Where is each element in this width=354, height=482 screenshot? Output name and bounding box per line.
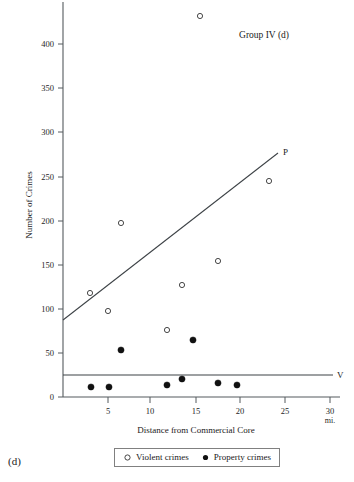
y-tick-label: 200 (41, 216, 54, 226)
p-line-label: P (283, 147, 288, 157)
data-point-property (106, 384, 112, 390)
data-point-property (179, 376, 185, 382)
y-tick-label: 0 (50, 392, 54, 402)
filled-circle-icon (201, 453, 210, 462)
legend-label-violent: Violent crimes (136, 451, 189, 463)
fit-line-p: P (63, 147, 288, 320)
scatter-plot-figure: 0 50 100 150 200 250 300 350 400 5 10 15… (0, 0, 354, 482)
open-circle-icon (123, 453, 132, 462)
chart-legend: Violent crimes Property crimes (114, 448, 280, 467)
group-title: Group IV (d) (239, 30, 289, 41)
data-point-violent (87, 290, 92, 295)
x-axis-tick-labels: 5 10 15 20 25 30 mi. (106, 406, 335, 425)
v-line-label: V (337, 370, 344, 380)
y-axis-ticks (58, 44, 63, 397)
data-point-property (118, 347, 124, 353)
data-point-property (88, 384, 94, 390)
x-tick-label: 10 (146, 406, 155, 416)
data-point-property (164, 382, 170, 388)
axis-lines (63, 2, 340, 397)
y-tick-label: 100 (41, 304, 54, 314)
data-point-violent (266, 178, 271, 183)
plot-canvas: 0 50 100 150 200 250 300 350 400 5 10 15… (0, 0, 354, 482)
data-point-violent (118, 220, 123, 225)
legend-entry-property: Property crimes (201, 451, 271, 463)
x-axis-ticks (108, 397, 330, 403)
data-point-property (234, 382, 240, 388)
legend-label-property: Property crimes (214, 451, 271, 463)
x-axis-title: Distance from Commercial Core (137, 425, 255, 435)
x-axis-unit-label: mi. (325, 416, 335, 425)
legend-entry-violent: Violent crimes (123, 451, 189, 463)
x-tick-label: 30 (326, 406, 335, 416)
series-violent-crimes (87, 13, 271, 332)
y-tick-label: 400 (41, 39, 54, 49)
data-point-violent-outlier (197, 13, 202, 18)
data-point-violent (164, 327, 169, 332)
panel-letter: (d) (8, 455, 21, 467)
x-tick-label: 15 (192, 406, 201, 416)
x-tick-label: 25 (281, 406, 290, 416)
y-tick-label: 250 (41, 172, 54, 182)
data-point-property (215, 380, 221, 386)
x-tick-label: 5 (106, 406, 110, 416)
y-tick-label: 50 (46, 348, 55, 358)
y-tick-label: 150 (41, 260, 54, 270)
data-point-property (190, 337, 196, 343)
y-tick-label: 350 (41, 83, 54, 93)
data-point-violent (179, 282, 184, 287)
series-property-crimes (88, 337, 240, 390)
p-regression-line (63, 153, 278, 320)
y-axis-tick-labels: 0 50 100 150 200 250 300 350 400 (41, 39, 54, 402)
data-point-violent (105, 308, 110, 313)
data-point-violent (215, 258, 220, 263)
x-tick-label: 20 (236, 406, 245, 416)
y-tick-label: 300 (41, 127, 54, 137)
fit-line-v: V (63, 370, 344, 380)
y-axis-title: Number of Crimes (24, 171, 34, 239)
